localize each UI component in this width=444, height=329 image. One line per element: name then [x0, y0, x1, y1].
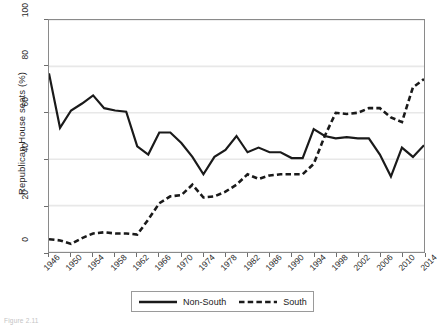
x-tick-mark — [402, 253, 403, 257]
x-tick-mark — [314, 253, 315, 257]
y-tick-label: 0 — [9, 237, 41, 269]
x-tick-mark — [181, 253, 182, 257]
y-tick-label: 60 — [9, 97, 41, 129]
legend: Non-SouthSouth — [131, 291, 314, 312]
x-tick-mark — [48, 253, 49, 257]
x-tick-mark — [136, 253, 137, 257]
x-tick-mark — [425, 253, 426, 257]
figure-caption: Figure 2.11 — [4, 317, 39, 324]
legend-entry-south[interactable]: South — [238, 297, 307, 307]
legend-label: Non-South — [183, 297, 226, 307]
y-tick-label: 100 — [9, 3, 41, 35]
series-line-non-south — [49, 73, 424, 176]
x-tick-mark — [269, 253, 270, 257]
figure-root: Republican House seats (%) 020406080100 … — [0, 0, 444, 329]
legend-entry-non-south[interactable]: Non-South — [138, 297, 226, 307]
legend-label: South — [283, 297, 307, 307]
x-tick-mark — [203, 253, 204, 257]
legend-swatch-solid — [138, 297, 178, 307]
plot-area — [48, 19, 425, 253]
x-tick-mark — [158, 253, 159, 257]
y-tick-label: 40 — [9, 143, 41, 175]
x-tick-mark — [291, 253, 292, 257]
x-tick-mark — [114, 253, 115, 257]
x-tick-mark — [247, 253, 248, 257]
y-tick-label: 20 — [9, 190, 41, 222]
data-series-layer — [49, 20, 424, 252]
x-tick-mark — [380, 253, 381, 257]
legend-swatch-dashed — [238, 297, 278, 307]
y-tick-label: 80 — [9, 50, 41, 82]
x-tick-mark — [70, 253, 71, 257]
series-line-south — [49, 79, 424, 244]
